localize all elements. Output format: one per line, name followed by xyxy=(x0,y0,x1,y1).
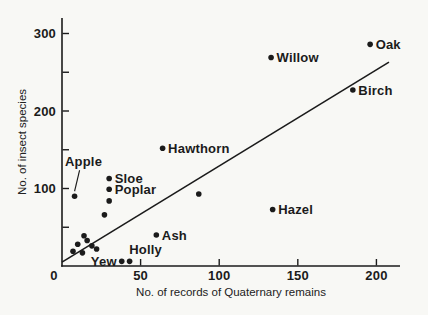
data-point-yew xyxy=(119,259,125,265)
scatter-chart-figure: 050100150200100200300OakWillowBirchHawth… xyxy=(0,0,428,315)
point-label-hazel: Hazel xyxy=(278,202,313,217)
data-point-unlabeled xyxy=(80,250,86,256)
point-label-yew: Yew xyxy=(91,254,118,269)
y-axis-title: No. of insect species xyxy=(16,89,28,195)
data-point-apple xyxy=(72,193,78,199)
scatter-chart-canvas: 050100150200100200300OakWillowBirchHawth… xyxy=(0,0,428,315)
point-label-hawthorn: Hawthorn xyxy=(168,141,230,156)
data-point-unlabeled xyxy=(106,198,112,204)
y-tick-label-200: 200 xyxy=(34,104,56,119)
x-tick-label-50: 50 xyxy=(133,268,148,283)
data-point-unlabeled xyxy=(196,191,202,197)
point-label-birch: Birch xyxy=(358,83,392,98)
data-point-hazel xyxy=(270,207,276,213)
point-label-ash: Ash xyxy=(162,228,187,243)
data-point-ash xyxy=(154,232,160,238)
data-point-sloe xyxy=(106,176,112,182)
data-point-unlabeled xyxy=(102,212,108,218)
trend-line xyxy=(62,62,389,262)
x-axis-title: No. of records of Quaternary remains xyxy=(136,286,326,298)
x-tick-label-200: 200 xyxy=(365,268,387,283)
data-point-unlabeled xyxy=(75,242,81,248)
data-point-unlabeled xyxy=(81,233,87,239)
point-label-poplar: Poplar xyxy=(115,182,157,197)
data-point-poplar xyxy=(106,186,112,192)
data-point-unlabeled xyxy=(94,246,100,252)
leader-line-apple xyxy=(75,170,80,191)
x-tick-label-100: 100 xyxy=(208,268,230,283)
data-point-unlabeled xyxy=(89,243,95,249)
x-tick-label-0: 0 xyxy=(50,268,57,283)
x-tick-label-150: 150 xyxy=(287,268,309,283)
data-point-birch xyxy=(350,87,356,93)
data-point-willow xyxy=(268,55,274,61)
y-tick-label-300: 300 xyxy=(34,26,56,41)
data-point-unlabeled xyxy=(84,238,90,244)
point-label-oak: Oak xyxy=(376,37,402,52)
data-point-holly xyxy=(127,259,133,265)
data-point-unlabeled xyxy=(70,248,76,254)
point-label-willow: Willow xyxy=(277,50,320,65)
point-label-holly: Holly xyxy=(129,242,162,257)
data-point-oak xyxy=(367,42,373,48)
point-label-apple: Apple xyxy=(65,154,102,169)
y-tick-label-100: 100 xyxy=(34,181,56,196)
data-point-hawthorn xyxy=(160,145,166,151)
